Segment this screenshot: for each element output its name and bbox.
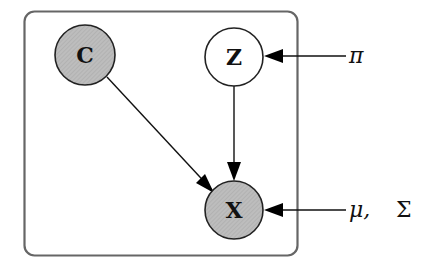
param-pi-label: π xyxy=(348,43,364,68)
node-z-label: Z xyxy=(226,44,242,70)
node-x: X xyxy=(205,181,263,239)
arrowhead-c-to-x xyxy=(196,174,214,193)
param-mu-label: μ, xyxy=(349,197,370,222)
node-c-label: C xyxy=(76,42,94,68)
arrowhead-musigma-to-x xyxy=(264,203,283,217)
node-z: Z xyxy=(205,28,263,86)
node-x-label: X xyxy=(225,197,243,223)
arrowhead-z-to-x xyxy=(227,162,241,181)
param-sigma-label: Σ xyxy=(396,197,412,222)
edge-c-to-x xyxy=(107,77,212,190)
arrowhead-pi-to-z xyxy=(264,49,283,63)
node-c: C xyxy=(55,25,115,85)
graphical-model-diagram: C Z X π μ, Σ xyxy=(0,0,438,274)
